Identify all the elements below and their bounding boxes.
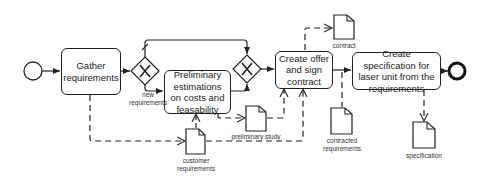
label-line: specification — [394, 152, 454, 160]
label-contract: contract — [314, 42, 374, 50]
association-study-to-offer — [267, 89, 284, 118]
data-object-contracted-requirements[interactable] — [331, 108, 352, 134]
label-line: requirements — [166, 165, 226, 173]
label-specification: specification — [394, 152, 454, 160]
label-preliminary-study: preliminary study — [226, 133, 286, 141]
label-contracted-requirements: contracted requirements — [312, 137, 372, 153]
label-line: requirements — [118, 99, 178, 107]
task-label: Create specification for laser unit from… — [355, 48, 438, 94]
start-event[interactable] — [24, 62, 42, 80]
document-icon — [413, 122, 435, 148]
label-line: contract — [314, 42, 374, 50]
data-object-customer-requirements[interactable] — [186, 129, 205, 154]
document-icon — [246, 106, 266, 131]
label-line: requirements — [312, 145, 372, 153]
data-object-specification[interactable] — [413, 122, 435, 148]
label-customer-requirements: customer requirements — [166, 157, 226, 173]
data-object-contract[interactable] — [334, 15, 354, 39]
flow-label-new-requirements: new requirements — [118, 91, 178, 107]
label-line: customer — [166, 157, 226, 165]
label-line: preliminary study — [226, 133, 286, 141]
end-event[interactable] — [449, 63, 465, 79]
task-gather-requirements[interactable]: Gather requirements — [61, 48, 121, 95]
task-label: Create offer and sign contract — [278, 53, 330, 88]
task-create-specification[interactable]: Create specification for laser unit from… — [352, 52, 441, 90]
document-icon — [331, 108, 352, 134]
sequence-flow-default — [145, 40, 247, 57]
task-label: Gather requirements — [63, 60, 118, 83]
exclusive-gateway-split[interactable] — [131, 57, 159, 85]
document-icon — [334, 15, 354, 39]
sequence-flow-preliminary-to-merge — [231, 84, 247, 91]
exclusive-gateway-merge[interactable] — [233, 55, 261, 83]
task-create-offer[interactable]: Create offer and sign contract — [275, 51, 333, 89]
label-line: new — [118, 91, 178, 99]
label-line: contracted — [312, 137, 372, 145]
document-icon — [186, 129, 205, 154]
data-object-preliminary-study[interactable] — [246, 106, 266, 131]
